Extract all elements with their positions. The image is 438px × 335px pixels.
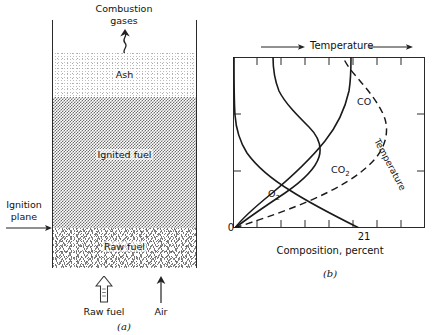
temperature-axis-arrow-left-icon: [261, 41, 307, 52]
composition-profile-chart: CO CO2 O2 Temperature: [233, 57, 425, 228]
ash-label: Ash: [114, 69, 135, 80]
raw-fuel-layer: Raw fuel: [53, 228, 196, 268]
chart-plot-area: [233, 57, 425, 228]
temperature-axis-arrow-right-icon: [369, 41, 415, 52]
air-inlet-label: Air: [154, 306, 167, 317]
curve-o2: [234, 57, 359, 228]
ignited-fuel-label: Ignited fuel: [96, 149, 154, 160]
ignition-plane-arrow-icon: [6, 222, 54, 234]
raw-fuel-inlet-arrow-icon: [95, 276, 113, 303]
chart-xaxis-label: Composition, percent: [276, 245, 383, 256]
raw-fuel-inlet-label: Raw fuel: [84, 306, 125, 317]
ash-layer: Ash: [53, 53, 196, 97]
ignition-plane-label-line1: Ignition: [6, 199, 42, 210]
panel-b-caption: (b): [323, 268, 337, 279]
curve-label-co2: CO2: [331, 164, 350, 180]
ignition-plane-label-line2: plane: [11, 211, 37, 222]
bed-wall-right: [196, 20, 197, 268]
ignited-fuel-layer: Ignited fuel: [53, 97, 196, 228]
air-inlet-arrow-icon: [154, 276, 168, 303]
bottom-axis-ticks: [257, 220, 401, 227]
figure-container: Combustion gases Ash Ignited fuel Raw fu…: [0, 0, 438, 335]
curve-label-co: CO: [357, 96, 371, 107]
top-axis-ticks: [257, 58, 401, 65]
raw-fuel-label: Raw fuel: [102, 241, 147, 252]
panel-a-caption: (a): [117, 321, 131, 332]
curve-co: [235, 57, 351, 228]
xtick-label-0: 0: [228, 222, 234, 233]
temperature-axis-label: Temperature: [310, 40, 373, 51]
xtick-label-21: 21: [358, 231, 371, 242]
fuel-bed: Ash Ignited fuel Raw fuel: [52, 20, 197, 268]
curve-label-o2: O2: [268, 188, 280, 204]
combustion-gases-label-line1: Combustion: [96, 3, 153, 14]
right-axis-ticks: [417, 114, 424, 171]
